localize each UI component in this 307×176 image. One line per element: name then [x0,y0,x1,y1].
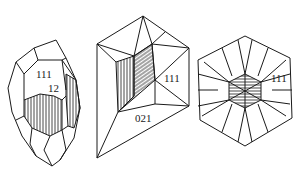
label-111-right: 111 [271,72,287,84]
label-111-left: 111 [36,68,52,80]
panel-elongated-crystal: 111 12 [8,40,80,166]
panel-pyramidal-crystal: 111 021 [97,16,189,158]
label-021: 021 [135,112,152,124]
panel-hexagonal-crystal: 111 [198,36,292,146]
label-12: 12 [48,82,59,94]
crystal-figure: 111 12 111 021 111 [0,0,307,176]
label-111-center: 111 [164,72,180,84]
